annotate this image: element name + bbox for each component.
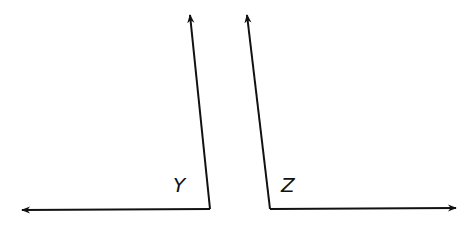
angle-label-y: Y: [173, 173, 187, 197]
angle-y: Y: [22, 15, 210, 210]
angle-diagram: Y Z: [0, 0, 473, 227]
angle-z: Z: [247, 15, 456, 209]
ray-y-up: [190, 15, 210, 209]
ray-z-up: [247, 15, 270, 209]
angle-label-z: Z: [280, 173, 296, 197]
ray-z-right: [270, 208, 456, 209]
ray-y-left: [22, 209, 210, 210]
